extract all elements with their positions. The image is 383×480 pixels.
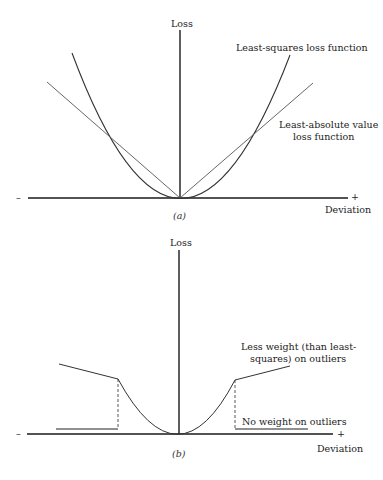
panel-b-caption: (b) (172, 448, 186, 459)
least-squares-label: Least-squares loss function (236, 42, 368, 53)
panel-a-x-plus: + (351, 191, 359, 202)
less-weight-label-line1: Less weight (than least- (241, 341, 356, 352)
loss-function-diagram: Loss – + Deviation (a) Least-squares los… (0, 0, 383, 480)
panel-b-x-minus: – (16, 428, 21, 439)
panel-b-x-axis-label: Deviation (317, 443, 363, 454)
least-absolute-label-line1: Least-absolute value (279, 119, 379, 130)
panel-b-y-axis-label: Loss (170, 237, 192, 248)
panel-b-x-plus: + (337, 428, 345, 439)
no-weight-label: No weight on outliers (242, 416, 347, 427)
panel-a: Loss – + Deviation (a) Least-squares los… (16, 18, 379, 221)
panel-a-x-minus: – (16, 192, 21, 203)
less-weight-left-segment (59, 364, 118, 379)
least-absolute-label-line2: loss function (293, 131, 354, 142)
least-squares-curve (72, 53, 290, 199)
panel-a-x-axis-label: Deviation (325, 204, 371, 215)
panel-a-y-axis-label: Loss (171, 18, 193, 29)
less-weight-right-segment (235, 366, 290, 380)
less-weight-label-line2: squares) on outliers (250, 353, 346, 364)
panel-a-caption: (a) (173, 210, 186, 221)
least-absolute-left-line (47, 82, 180, 198)
panel-b: Loss – + Deviation (b) Less weight (than… (16, 237, 363, 459)
robust-parabola-segment (118, 379, 235, 434)
